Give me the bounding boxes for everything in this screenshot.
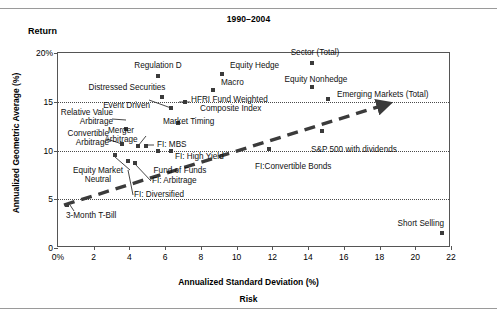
label-equity-hedge: Equity Hedge bbox=[230, 61, 279, 70]
x-tick-mark-16 bbox=[344, 246, 345, 250]
data-point bbox=[156, 74, 160, 78]
x-tick-mark-22 bbox=[451, 246, 452, 250]
label-merger-arbitrage: Merger Arbitrage bbox=[104, 126, 137, 145]
y-tick-label-20: 20% bbox=[36, 48, 53, 58]
data-point bbox=[440, 231, 444, 235]
top-divider-rule bbox=[0, 8, 497, 9]
data-point bbox=[267, 147, 271, 151]
label-emn-line1: Equity Market bbox=[73, 166, 123, 175]
label-3-month-tbill: 3-Month T-Bill bbox=[66, 211, 116, 220]
label-fund-of-funds: Fund of Funds bbox=[154, 166, 207, 175]
gridline-5 bbox=[58, 199, 449, 200]
label-merger-line1: Merger bbox=[108, 126, 134, 135]
label-sector-total: Sector (Total) bbox=[291, 48, 340, 57]
label-macro: Macro bbox=[221, 78, 244, 87]
y-axis-title: Annualized Geometric Average (%) bbox=[11, 43, 21, 243]
data-point bbox=[126, 159, 130, 163]
bottom-divider-rule bbox=[0, 308, 497, 309]
label-distressed-securities: Distressed Securities bbox=[89, 83, 166, 92]
label-emn-line2: Neutral bbox=[85, 175, 111, 184]
x-tick-label-4: 4 bbox=[127, 252, 132, 262]
risk-axis-caption: Risk bbox=[0, 294, 497, 304]
x-tick-mark-2 bbox=[94, 246, 95, 250]
label-equity-nonhedge: Equity Nonhedge bbox=[285, 75, 348, 84]
data-point bbox=[160, 95, 164, 99]
x-tick-mark-4 bbox=[129, 246, 130, 250]
x-tick-mark-6 bbox=[165, 246, 166, 250]
label-fi-arbitrage: FI: Arbitrage bbox=[152, 176, 197, 185]
data-point bbox=[183, 100, 187, 104]
x-tick-mark-8 bbox=[201, 246, 202, 250]
label-market-timing: Market Timing bbox=[163, 117, 214, 126]
data-point bbox=[310, 85, 314, 89]
x-tick-mark-18 bbox=[380, 246, 381, 250]
y-tick-label-15: 15 bbox=[44, 97, 53, 107]
label-relative-value-line1: Relative Value bbox=[61, 108, 113, 117]
data-point bbox=[169, 106, 173, 110]
x-tick-label-8: 8 bbox=[199, 252, 204, 262]
data-point bbox=[113, 153, 117, 157]
label-hfri-composite: HFRI Fund Weighted Composite Index bbox=[191, 95, 268, 113]
y-tick-mark-0 bbox=[54, 248, 58, 249]
plot-area: 20%151050 0%246810121416182022 bbox=[57, 52, 450, 247]
y-tick-mark-15 bbox=[54, 102, 58, 103]
y-tick-mark-10 bbox=[54, 151, 58, 152]
x-tick-label-22: 22 bbox=[446, 252, 455, 262]
data-point bbox=[326, 97, 330, 101]
label-sp500-with-dividends: S&P 500 with dividends bbox=[311, 145, 397, 154]
label-merger-line2: Arbitrage bbox=[104, 135, 137, 144]
data-point bbox=[310, 61, 314, 65]
label-equity-market-neutral: Equity Market Neutral bbox=[73, 166, 123, 185]
data-point bbox=[65, 203, 69, 207]
data-point bbox=[211, 88, 215, 92]
label-convertible-line2: Arbitrage bbox=[76, 138, 109, 147]
x-tick-label-14: 14 bbox=[303, 252, 312, 262]
x-tick-label-20: 20 bbox=[411, 252, 420, 262]
x-tick-mark-14 bbox=[308, 246, 309, 250]
data-point bbox=[144, 144, 148, 148]
y-tick-mark-20 bbox=[54, 53, 58, 54]
label-emerging-markets: Emerging Markets (Total) bbox=[337, 90, 428, 99]
label-hfri-line1: HFRI Fund Weighted bbox=[191, 95, 268, 104]
label-fi-convertible-bonds: FI:Convertible Bonds bbox=[255, 162, 331, 171]
return-axis-caption: Return bbox=[28, 26, 57, 36]
label-short-selling: Short Selling bbox=[398, 219, 444, 228]
label-fi-mbs: FI: MBS bbox=[157, 140, 187, 149]
x-tick-label-6: 6 bbox=[163, 252, 168, 262]
x-tick-label-16: 16 bbox=[339, 252, 348, 262]
x-tick-mark-12 bbox=[272, 246, 273, 250]
y-tick-label-10: 10 bbox=[44, 146, 53, 156]
label-regulation-d: Regulation D bbox=[134, 61, 181, 70]
label-convertible-arbitrage: Convertible Arbitrage bbox=[68, 129, 109, 148]
x-tick-label-0: 0% bbox=[52, 252, 64, 262]
label-hfri-line2: Composite Index bbox=[191, 104, 261, 113]
label-fi-high-yield: FI: High Yield bbox=[175, 152, 224, 161]
x-tick-label-2: 2 bbox=[91, 252, 96, 262]
data-point bbox=[320, 129, 324, 133]
data-point bbox=[133, 161, 137, 165]
label-relative-value-arbitrage: Relative Value Arbitrage bbox=[61, 108, 113, 127]
x-tick-mark-10 bbox=[237, 246, 238, 250]
label-convertible-line1: Convertible bbox=[68, 129, 109, 138]
figure-container: 1990–2004 Return Annualized Geometric Av… bbox=[0, 0, 497, 319]
x-tick-mark-20 bbox=[415, 246, 416, 250]
figure-title: 1990–2004 bbox=[0, 14, 497, 24]
x-tick-label-10: 10 bbox=[232, 252, 241, 262]
y-tick-mark-5 bbox=[54, 199, 58, 200]
leader-fi-diversified bbox=[128, 170, 133, 195]
x-tick-label-12: 12 bbox=[268, 252, 277, 262]
data-point bbox=[169, 149, 173, 153]
x-tick-label-18: 18 bbox=[375, 252, 384, 262]
label-fi-diversified: FI: Diversified bbox=[134, 190, 184, 199]
leader-fi-arbitrage bbox=[135, 164, 151, 181]
leader-relative-value bbox=[112, 119, 126, 120]
data-point bbox=[220, 72, 224, 76]
y-tick-label-5: 5 bbox=[48, 194, 53, 204]
x-axis-title: Annualized Standard Deviation (%) bbox=[0, 277, 497, 287]
